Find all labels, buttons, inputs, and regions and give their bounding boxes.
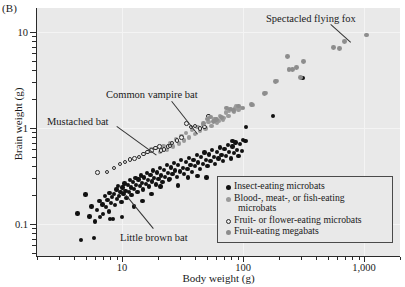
data-point-insect — [141, 187, 145, 191]
x-tick-minor — [103, 257, 104, 260]
annotation-leader-line — [171, 101, 198, 135]
x-tick-minor — [216, 257, 217, 260]
y-tick-minor — [32, 228, 36, 229]
x-tick-minor — [207, 257, 208, 260]
y-tick-major — [30, 32, 36, 33]
x-tick-minor — [224, 257, 225, 260]
data-point-insect — [170, 172, 174, 176]
data-point-insect — [101, 212, 105, 216]
data-point-fruitflower — [95, 170, 100, 175]
y-axis-spine — [36, 8, 37, 257]
data-point-insect — [210, 148, 214, 152]
data-point-insect — [113, 203, 117, 207]
data-point-insect — [176, 183, 180, 187]
gridline-horizontal — [37, 128, 400, 129]
data-point-mega — [273, 79, 278, 84]
data-point-insect — [227, 150, 231, 154]
data-point-blood — [187, 135, 191, 139]
y-tick-label: 10 — [18, 27, 29, 38]
data-point-mega — [224, 106, 229, 111]
y-tick-minor — [32, 233, 36, 234]
y-tick-minor — [32, 70, 36, 71]
data-point-insect — [140, 199, 144, 203]
y-tick-minor — [32, 245, 36, 246]
x-tick-minor — [158, 257, 159, 260]
y-axis-title: Brain weight (g) — [12, 54, 24, 194]
gridline-horizontal — [37, 32, 400, 33]
data-point-mega — [241, 106, 246, 111]
x-axis-title: Body weight (g) — [37, 272, 400, 284]
data-point-insect — [107, 209, 111, 213]
data-point-insect — [79, 238, 83, 242]
legend-item: Blood-, meat-, or fish-eatingmicrobats — [223, 193, 387, 214]
data-point-mega — [285, 54, 290, 59]
data-point-insect — [95, 208, 99, 212]
data-point-insect — [205, 164, 209, 168]
y-tick-minor — [32, 137, 36, 138]
y-tick-major — [30, 224, 36, 225]
data-point-insect — [176, 163, 180, 167]
legend-item: Fruit- or flower-eating microbats — [223, 215, 387, 226]
data-point-insect — [224, 154, 228, 158]
data-point-mega — [364, 33, 369, 38]
legend-marker-blood-icon — [223, 197, 234, 202]
data-point-insect — [230, 144, 234, 148]
legend: Insect-eating microbatsBlood-, meat-, or… — [217, 176, 393, 243]
x-tick-minor — [231, 257, 232, 260]
data-point-insect — [238, 142, 242, 146]
data-point-mega — [337, 46, 342, 51]
data-point-insect — [199, 155, 203, 159]
data-point-insect — [190, 170, 194, 174]
annotation-label: Spectacled flying fox — [266, 13, 356, 24]
annotation-label: Little brown bat — [120, 232, 188, 243]
data-point-insect — [229, 156, 233, 160]
data-point-insect — [173, 168, 177, 172]
y-tick-minor — [32, 36, 36, 37]
data-point-insect — [240, 149, 244, 153]
y-tick-minor — [32, 47, 36, 48]
data-point-mega — [294, 65, 299, 70]
data-point-fruitflower — [123, 160, 128, 165]
data-point-insect — [135, 190, 139, 194]
legend-marker-fruitflower-icon — [223, 219, 234, 224]
data-point-insect — [193, 164, 197, 168]
data-point-insect — [243, 139, 247, 143]
y-tick-label: 0.1 — [15, 219, 28, 230]
x-tick-minor — [400, 257, 401, 260]
y-tick-minor — [32, 157, 36, 158]
data-point-insect — [196, 160, 200, 164]
x-tick-minor — [328, 257, 329, 260]
x-tick-minor — [359, 257, 360, 260]
data-point-insect — [213, 162, 217, 166]
annotation-leader-line — [330, 24, 351, 43]
data-point-mega — [301, 59, 306, 64]
y-tick-minor — [32, 53, 36, 54]
y-tick-minor — [32, 178, 36, 179]
y-tick-minor — [32, 82, 36, 83]
data-point-insect — [230, 139, 234, 143]
data-point-insect — [158, 184, 162, 188]
data-point-insect — [83, 192, 87, 196]
x-tick-minor — [195, 257, 196, 260]
data-point-insect — [216, 156, 220, 160]
y-tick-minor — [32, 166, 36, 167]
data-point-insect — [185, 167, 189, 171]
annotation-label: Mustached bat — [47, 116, 109, 127]
x-tick-minor — [337, 257, 338, 260]
x-tick-minor — [301, 257, 302, 260]
data-point-mega — [262, 91, 267, 96]
data-point-insect — [87, 214, 91, 218]
y-tick-major — [30, 128, 36, 129]
y-tick-minor — [32, 239, 36, 240]
x-tick-minor — [74, 257, 75, 260]
x-tick-minor — [345, 257, 346, 260]
legend-label: Blood-, meat-, or fish-eatingmicrobats — [234, 193, 345, 214]
data-point-mega — [342, 39, 347, 44]
data-point-insect — [204, 175, 208, 179]
y-tick-minor — [32, 149, 36, 150]
data-point-insect — [179, 158, 183, 162]
x-tick-minor — [316, 257, 317, 260]
x-tick-minor — [279, 257, 280, 260]
data-point-insect — [207, 152, 211, 156]
legend-marker-insect-icon — [223, 185, 234, 190]
